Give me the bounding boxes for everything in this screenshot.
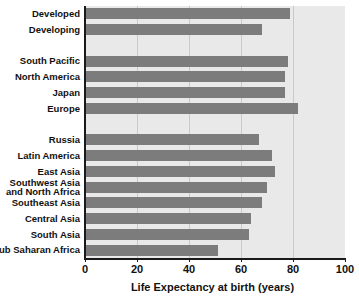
x-tick-label: 80 bbox=[278, 263, 308, 275]
bar bbox=[85, 71, 285, 82]
bar bbox=[85, 197, 262, 208]
x-tick-label: 20 bbox=[122, 263, 152, 275]
bar bbox=[85, 245, 218, 256]
x-tick-label: 60 bbox=[226, 263, 256, 275]
bar bbox=[85, 134, 259, 145]
x-tick-40 bbox=[189, 258, 190, 262]
category-label: Southwest Asiaand North Africa bbox=[0, 178, 80, 197]
category-label: Developed bbox=[32, 9, 80, 19]
category-label: North America bbox=[15, 72, 80, 82]
bar bbox=[85, 24, 262, 35]
category-label: East Asia bbox=[38, 167, 80, 177]
x-tick-label: 100 bbox=[330, 263, 359, 275]
bar bbox=[85, 150, 272, 161]
category-label: Sub Saharan Africa bbox=[0, 245, 80, 255]
bar bbox=[85, 166, 275, 177]
category-label-line: and North Africa bbox=[0, 187, 80, 197]
category-label: Central Asia bbox=[25, 214, 80, 224]
x-tick-label: 0 bbox=[70, 263, 100, 275]
x-tick-60 bbox=[241, 258, 242, 262]
x-tick-0 bbox=[85, 258, 86, 262]
x-tick-20 bbox=[137, 258, 138, 262]
category-label: Europe bbox=[47, 104, 80, 114]
bar bbox=[85, 56, 288, 67]
bar bbox=[85, 103, 298, 114]
category-label-column: DevelopedDevelopingSouth PacificNorth Am… bbox=[0, 6, 83, 258]
x-tick-100 bbox=[345, 258, 346, 262]
category-label: Russia bbox=[49, 135, 80, 145]
x-tick-label: 40 bbox=[174, 263, 204, 275]
category-label: Developing bbox=[29, 25, 80, 35]
bar bbox=[85, 182, 267, 193]
bar bbox=[85, 8, 290, 19]
bar bbox=[85, 87, 285, 98]
bar bbox=[85, 213, 251, 224]
category-label: Southeast Asia bbox=[12, 198, 80, 208]
category-label: Latin America bbox=[18, 151, 80, 161]
category-label: South Pacific bbox=[20, 56, 80, 66]
bar bbox=[85, 229, 249, 240]
x-tick-80 bbox=[293, 258, 294, 262]
gridline-80 bbox=[293, 6, 294, 258]
y-axis-line bbox=[84, 6, 86, 259]
plot-area bbox=[85, 6, 345, 258]
x-axis-line bbox=[84, 258, 345, 260]
bar-chart: DevelopedDevelopingSouth PacificNorth Am… bbox=[0, 0, 359, 298]
category-label: South Asia bbox=[31, 230, 80, 240]
x-axis-title: Life Expectancy at birth (years) bbox=[0, 281, 359, 294]
category-label: Japan bbox=[53, 88, 80, 98]
